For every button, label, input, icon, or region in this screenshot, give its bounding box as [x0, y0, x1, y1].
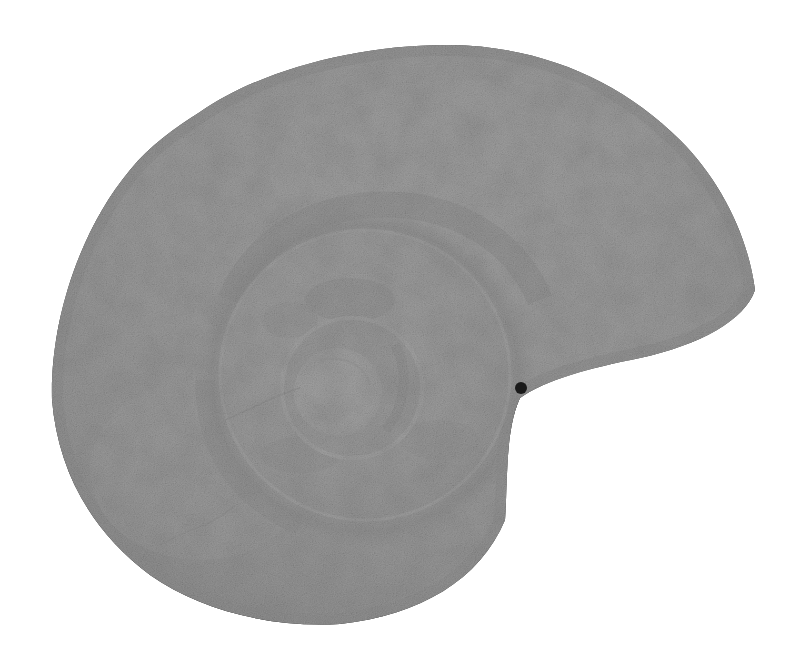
ammonite-photo: [0, 0, 794, 662]
aperture-spot: [515, 382, 527, 394]
